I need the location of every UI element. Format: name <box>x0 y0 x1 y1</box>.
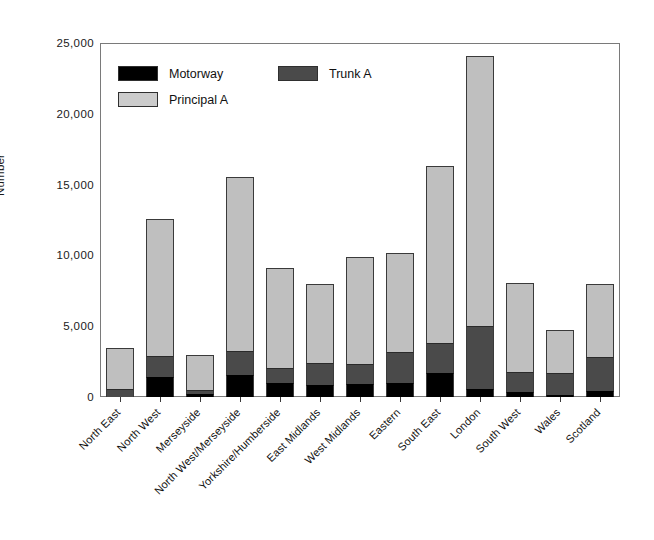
bar-segment-principal-a <box>426 166 454 343</box>
legend-row-1: Motorway Trunk A <box>118 66 368 92</box>
legend-label-trunk-a: Trunk A <box>329 67 372 81</box>
bar-segment-principal-a <box>346 257 374 364</box>
bar-west-midlands[interactable] <box>346 257 374 397</box>
bar-segment-trunk-a <box>146 356 174 377</box>
bar-wales[interactable] <box>546 330 574 397</box>
bar-segment-motorway <box>146 377 174 397</box>
bar-segment-trunk-a <box>266 368 294 383</box>
legend-label-principal-a: Principal A <box>169 93 228 107</box>
bar-segment-principal-a <box>306 284 334 363</box>
x-tick-mark <box>400 397 401 402</box>
bar-segment-motorway <box>306 385 334 397</box>
black-swatch-icon <box>118 66 158 81</box>
x-tick-mark <box>200 397 201 402</box>
x-tick-mark <box>480 397 481 402</box>
bar-segment-trunk-a <box>386 352 414 383</box>
legend-label-motorway: Motorway <box>169 67 223 81</box>
bar-south-west[interactable] <box>506 283 534 397</box>
bar-segment-principal-a <box>106 348 134 389</box>
bar-scotland[interactable] <box>586 284 614 397</box>
bar-north-west-merseyside[interactable] <box>226 177 254 397</box>
x-tick-mark <box>360 397 361 402</box>
x-tick-mark <box>120 397 121 402</box>
bar-segment-trunk-a <box>546 373 574 395</box>
bar-segment-principal-a <box>146 219 174 356</box>
bar-segment-principal-a <box>506 283 534 372</box>
bar-merseyside[interactable] <box>186 355 214 397</box>
bar-yorkshire-humberside[interactable] <box>266 268 294 397</box>
bar-segment-principal-a <box>386 253 414 352</box>
x-tick-mark <box>320 397 321 402</box>
x-tick-mark <box>520 397 521 402</box>
bar-south-east[interactable] <box>426 166 454 397</box>
bar-segment-trunk-a <box>586 357 614 391</box>
bar-segment-trunk-a <box>426 343 454 373</box>
bar-east-midlands[interactable] <box>306 284 334 397</box>
bar-segment-trunk-a <box>346 364 374 384</box>
bar-segment-principal-a <box>466 56 494 326</box>
chart-page: 05,00010,00015,00020,00025,000 Number No… <box>0 0 654 540</box>
bar-segment-motorway <box>426 373 454 397</box>
x-tick-mark <box>240 397 241 402</box>
bar-segment-motorway <box>346 384 374 397</box>
light-gray-swatch-icon <box>118 92 158 107</box>
bar-segment-trunk-a <box>226 351 254 375</box>
bar-segment-motorway <box>226 375 254 397</box>
bar-segment-motorway <box>386 383 414 397</box>
bar-segment-motorway <box>266 383 294 397</box>
legend-item-motorway[interactable]: Motorway <box>118 66 223 81</box>
bar-segment-principal-a <box>586 284 614 357</box>
bar-segment-motorway <box>466 389 494 397</box>
x-tick-mark <box>160 397 161 402</box>
legend-item-trunk-a[interactable]: Trunk A <box>278 66 372 81</box>
dark-gray-swatch-icon <box>278 66 318 81</box>
x-tick-mark <box>280 397 281 402</box>
bar-north-west[interactable] <box>146 219 174 397</box>
bar-segment-trunk-a <box>106 389 134 397</box>
bar-segment-principal-a <box>546 330 574 373</box>
legend-item-principal-a[interactable]: Principal A <box>118 92 228 107</box>
x-tick-mark <box>440 397 441 402</box>
bar-eastern[interactable] <box>386 253 414 397</box>
x-tick-mark <box>600 397 601 402</box>
bar-segment-principal-a <box>226 177 254 351</box>
legend-row-2: Principal A <box>118 92 368 118</box>
bar-segment-trunk-a <box>506 372 534 392</box>
chart-legend: Motorway Trunk A Principal A <box>118 66 368 118</box>
bar-london[interactable] <box>466 56 494 397</box>
bar-segment-trunk-a <box>466 326 494 389</box>
x-tick-mark <box>560 397 561 402</box>
bar-north-east[interactable] <box>106 348 134 397</box>
bar-segment-principal-a <box>186 355 214 390</box>
bar-segment-trunk-a <box>306 363 334 385</box>
bar-segment-principal-a <box>266 268 294 368</box>
